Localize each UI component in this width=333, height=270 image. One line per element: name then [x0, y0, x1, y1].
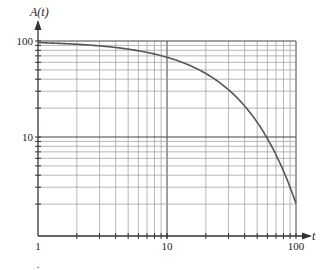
x-tick-1: 1: [35, 240, 41, 252]
grid-lines: [35, 41, 296, 239]
x-tick-10: 10: [162, 240, 174, 252]
footnote-dot: .: [37, 258, 40, 270]
y-axis-arrow-icon: [35, 20, 42, 30]
x-axis-arrow-icon: [302, 233, 312, 240]
y-axis-label: A(t): [29, 5, 49, 19]
axes: [35, 20, 313, 240]
x-axis-label: t: [312, 229, 316, 243]
y-tick-100: 100: [17, 35, 34, 47]
chart: A(t) t 100 10 1 10 100 .: [0, 0, 333, 270]
x-tick-100: 100: [288, 240, 305, 252]
y-tick-10: 10: [22, 131, 34, 143]
